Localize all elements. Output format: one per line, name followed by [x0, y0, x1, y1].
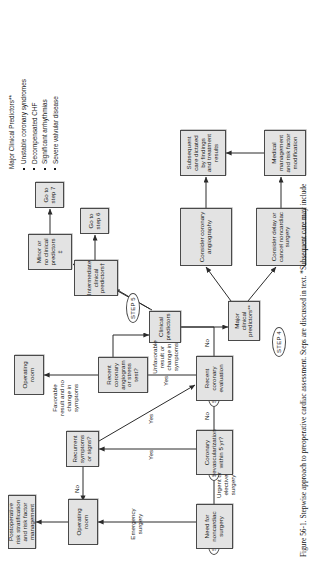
- edge-label-yes-1: Yes: [148, 450, 155, 460]
- node-go-to-step-7-label: Go to step 7: [43, 185, 57, 206]
- legend-item: Severe valvular disease: [52, 11, 60, 171]
- edge-label-yes-2-text: Yes: [147, 414, 154, 424]
- node-go-to-step-7[interactable]: Go to step 7: [35, 182, 64, 208]
- edge-label-no-3-text: No: [73, 485, 80, 493]
- legend-item: Significant arrhythmias: [41, 11, 49, 171]
- edge-label-yes-3: Yes: [163, 376, 170, 386]
- node-operating-room-2-label: Operating room: [22, 358, 36, 393]
- legend-item: Decompensated CHF: [31, 11, 39, 171]
- node-go-to-step-6-label: Go to step 6: [88, 211, 102, 232]
- node-go-to-step-6[interactable]: Go to step 6: [80, 208, 109, 234]
- figure-caption: Figure 56-1. Stepwise approach to preope…: [300, 5, 309, 557]
- node-recent-coronary-angiogram[interactable]: Recent coronary angiogram or stress test…: [98, 357, 148, 393]
- node-intermediate-clinical-predictors[interactable]: Intermediate clinical predictors†: [74, 260, 118, 296]
- node-major-clinical-predictors-label: Major clinical predictors**: [234, 304, 255, 339]
- edge-label-no-2-text: No: [203, 339, 210, 347]
- edge-label-yes-1-text: Yes: [147, 450, 154, 460]
- edge-label-no-3: No: [74, 485, 81, 493]
- step-badge-5: STEP 5: [126, 293, 140, 323]
- edge-label-no-1: No: [204, 412, 211, 420]
- node-minor-or-no-clinical-predictors[interactable]: Minor or no clinical predictors ‡: [28, 234, 72, 270]
- figure-caption-text: Stepwise approach to preoperative cardia…: [299, 184, 308, 519]
- figure-number: Figure 56-1.: [299, 520, 308, 557]
- node-recurrent-symptoms[interactable]: Recurrent symptoms or signs?: [66, 431, 99, 467]
- step-badge-4-label: STEP 4: [276, 331, 282, 353]
- node-consider-delay-or-cancel-surgery-label: Consider delay or cancel noncardiac surg…: [271, 211, 292, 264]
- edge-label-no-2: No: [204, 339, 211, 347]
- edge-label-yes-3-text: Yes: [162, 376, 169, 386]
- node-medical-management-label: Medical management and risk factor modif…: [271, 133, 299, 174]
- edge-label-unfavorable-result-text: Unfavorable result or change in symptoms: [151, 340, 179, 373]
- edge-label-emergency-surgery: Emergency surgery: [130, 501, 144, 547]
- node-recent-coronary-evaluation[interactable]: Recent coronary evaluation: [196, 356, 233, 401]
- node-recent-coronary-angiogram-label: Recent coronary angiogram or stress test…: [106, 360, 141, 391]
- edge-label-no-1-text: No: [203, 412, 210, 420]
- node-subsequent-care-label: Subsequent care dictated by findings and…: [186, 133, 221, 174]
- edge-label-unfavorable-result: Unfavorable result or change in symptoms: [152, 337, 180, 377]
- node-consider-coronary-angiography-label: Consider coronary angiography: [199, 211, 213, 264]
- node-recent-coronary-evaluation-label: Recent coronary evaluation: [204, 359, 225, 399]
- node-operating-room-1[interactable]: Operating room: [68, 499, 98, 545]
- node-postoperative-risk-stratification[interactable]: Postoperative risk stratification and ri…: [8, 495, 36, 549]
- node-recurrent-symptoms-label: Recurrent symptoms or signs?: [72, 434, 93, 465]
- legend-title: Major Clinical Predictors**: [8, 11, 16, 171]
- node-operating-room-2[interactable]: Operating room: [14, 355, 44, 395]
- step-badge-4: STEP 4: [272, 327, 286, 357]
- node-need-for-noncardiac-surgery-label: Need for noncardiac surgery: [204, 507, 225, 547]
- edge-label-urgent-or-elective-surgery-text: Urgent or elective surgery: [215, 472, 236, 498]
- edge-label-emergency-surgery-text: Emergency surgery: [129, 508, 143, 539]
- major-clinical-predictors-legend: Major Clinical Predictors** Unstable cor…: [8, 11, 62, 171]
- legend-list: Unstable coronary syndromes Decompensate…: [20, 11, 60, 171]
- node-subsequent-care[interactable]: Subsequent care dictated by findings and…: [180, 130, 226, 176]
- edge-label-yes-2: Yes: [148, 414, 155, 424]
- node-major-clinical-predictors[interactable]: Major clinical predictors**: [228, 301, 260, 341]
- node-minor-or-no-clinical-predictors-label: Minor or no clinical predictors ‡: [36, 237, 64, 268]
- node-postoperative-risk-stratification-label: Postoperative risk stratification and ri…: [8, 498, 36, 547]
- edge-label-favorable-result: Favorable result and no change in sympto…: [52, 376, 80, 420]
- node-consider-coronary-angiography[interactable]: Consider coronary angiography: [180, 208, 232, 266]
- step-badge-5-label: STEP 5: [130, 297, 136, 319]
- edge-label-favorable-result-text: Favorable result and no change in sympto…: [51, 380, 79, 416]
- node-need-for-noncardiac-surgery[interactable]: Need for noncardiac surgery: [196, 504, 233, 549]
- node-intermediate-clinical-predictors-label: Intermediate clinical predictors†: [86, 261, 107, 295]
- edge-label-urgent-or-elective-surgery: Urgent or elective surgery: [216, 467, 237, 503]
- figure-canvas: STEP 1 STEP 2 STEP 3 STEP 4 STEP 5 Need …: [0, 0, 323, 563]
- page-rotation-stage: STEP 1 STEP 2 STEP 3 STEP 4 STEP 5 Need …: [0, 0, 323, 563]
- node-operating-room-1-label: Operating room: [76, 502, 90, 543]
- legend-item: Unstable coronary syndromes: [20, 11, 28, 171]
